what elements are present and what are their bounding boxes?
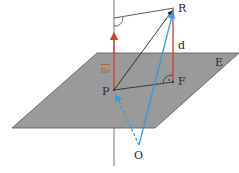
- label-R: R: [178, 3, 186, 14]
- label-P: P: [102, 86, 109, 97]
- label-E: E: [215, 57, 223, 68]
- point-F: [172, 81, 174, 83]
- label-F: F: [178, 76, 186, 87]
- right-angle-dot: [168, 79, 170, 81]
- label-O: O: [134, 150, 143, 161]
- top-connector-line: [114, 8, 174, 18]
- point-P: [113, 89, 115, 91]
- label-normal-vector: n₀: [101, 64, 110, 75]
- diagram-canvas: [0, 0, 239, 173]
- label-d: d: [178, 40, 185, 51]
- angle-arc-top: [114, 17, 123, 26]
